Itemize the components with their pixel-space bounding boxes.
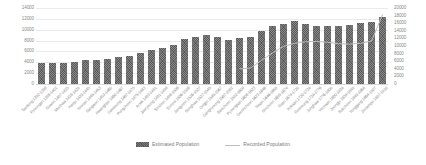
gridline bbox=[36, 84, 388, 85]
bar bbox=[247, 37, 254, 84]
bar-slot bbox=[80, 8, 91, 84]
bar bbox=[324, 26, 331, 84]
bar bbox=[148, 50, 155, 84]
bar-series-estimated-population bbox=[36, 8, 388, 84]
bar bbox=[93, 60, 100, 84]
y-tick-right: 2000 bbox=[394, 74, 404, 79]
bar-slot bbox=[58, 8, 69, 84]
bar-slot bbox=[69, 8, 80, 84]
y-tick-right: 0 bbox=[394, 82, 396, 87]
y-tick-left: 2000 bbox=[24, 71, 34, 76]
bar-slot bbox=[47, 8, 58, 84]
bar-slot bbox=[355, 8, 366, 84]
y-tick-left: 12000 bbox=[22, 17, 34, 22]
bar bbox=[159, 48, 166, 84]
y-tick-left: 0 bbox=[32, 82, 34, 87]
legend-item-estimated-population: Estimated Population bbox=[136, 142, 199, 147]
bar-slot bbox=[36, 8, 47, 84]
bar-slot bbox=[124, 8, 135, 84]
bar-slot bbox=[322, 8, 333, 84]
y-axis-left: 02000400060008000100001200014000 bbox=[6, 8, 36, 84]
bar-swatch-icon bbox=[136, 142, 149, 147]
bar bbox=[203, 35, 210, 84]
bar bbox=[104, 59, 111, 85]
bar-slot bbox=[267, 8, 278, 84]
bar bbox=[170, 45, 177, 84]
bar-slot bbox=[333, 8, 344, 84]
y-tick-right: 14000 bbox=[394, 29, 406, 34]
bar bbox=[115, 57, 122, 84]
legend-item-recorded-population: Recorded Population bbox=[225, 142, 290, 147]
y-tick-left: 6000 bbox=[24, 49, 34, 54]
y-tick-left: 14000 bbox=[22, 6, 34, 11]
y-tick-left: 4000 bbox=[24, 60, 34, 65]
y-tick-right: 10000 bbox=[394, 44, 406, 49]
y-tick-left: 8000 bbox=[24, 38, 34, 43]
bar-slot bbox=[278, 8, 289, 84]
bar-slot bbox=[146, 8, 157, 84]
bar bbox=[313, 26, 320, 84]
plot-area bbox=[36, 8, 388, 84]
bar bbox=[379, 17, 386, 84]
bar-slot bbox=[102, 8, 113, 84]
bar-slot bbox=[377, 8, 388, 84]
bar-slot bbox=[179, 8, 190, 84]
bar bbox=[49, 63, 56, 84]
y-tick-right: 8000 bbox=[394, 51, 404, 56]
bar bbox=[258, 31, 265, 84]
bar-slot bbox=[201, 8, 212, 84]
bar-slot bbox=[223, 8, 234, 84]
bar bbox=[280, 24, 287, 84]
bar-slot bbox=[135, 8, 146, 84]
bar bbox=[236, 38, 243, 84]
y-axis-right: 0200040006000800010000120001400016000180… bbox=[390, 8, 424, 84]
y-tick-right: 4000 bbox=[394, 67, 404, 72]
bar bbox=[126, 56, 133, 84]
bar bbox=[225, 40, 232, 85]
bar-slot bbox=[168, 8, 179, 84]
bar-slot bbox=[344, 8, 355, 84]
bar bbox=[357, 23, 364, 84]
bar-slot bbox=[157, 8, 168, 84]
bar-slot bbox=[91, 8, 102, 84]
bar bbox=[368, 22, 375, 84]
y-tick-right: 20000 bbox=[394, 6, 406, 11]
y-tick-left: 10000 bbox=[22, 27, 34, 32]
bar bbox=[302, 24, 309, 84]
y-tick-right: 16000 bbox=[394, 21, 406, 26]
bar-slot bbox=[190, 8, 201, 84]
chart-legend: Estimated Population Recorded Population bbox=[0, 142, 426, 147]
line-swatch-icon bbox=[225, 142, 240, 147]
bar-slot bbox=[289, 8, 300, 84]
bar bbox=[181, 39, 188, 84]
bar bbox=[291, 21, 298, 84]
bar-slot bbox=[245, 8, 256, 84]
y-tick-right: 6000 bbox=[394, 59, 404, 64]
bar-slot bbox=[113, 8, 124, 84]
bar-slot bbox=[311, 8, 322, 84]
bar bbox=[346, 25, 353, 84]
bar bbox=[335, 26, 342, 84]
bar bbox=[60, 63, 67, 84]
bar bbox=[269, 26, 276, 84]
legend-label-recorded-population: Recorded Population bbox=[243, 142, 290, 147]
bar-slot bbox=[366, 8, 377, 84]
bar-slot bbox=[300, 8, 311, 84]
bar bbox=[38, 63, 45, 84]
legend-label-estimated-population: Estimated Population bbox=[152, 142, 199, 147]
plot-wrapper: 02000400060008000100001200014000 0200040… bbox=[0, 0, 426, 92]
bar-slot bbox=[212, 8, 223, 84]
y-tick-right: 18000 bbox=[394, 13, 406, 18]
bar bbox=[82, 60, 89, 84]
bar bbox=[137, 53, 144, 84]
bar-slot bbox=[234, 8, 245, 84]
x-axis-category-labels: Taedong 1392-1398Pyeongan 1398-1402Suwon… bbox=[36, 86, 388, 136]
population-combo-chart: 02000400060008000100001200014000 0200040… bbox=[0, 0, 426, 165]
bar bbox=[214, 37, 221, 84]
bar bbox=[71, 62, 78, 84]
bar-slot bbox=[256, 8, 267, 84]
bar bbox=[192, 37, 199, 84]
y-tick-right: 12000 bbox=[394, 36, 406, 41]
